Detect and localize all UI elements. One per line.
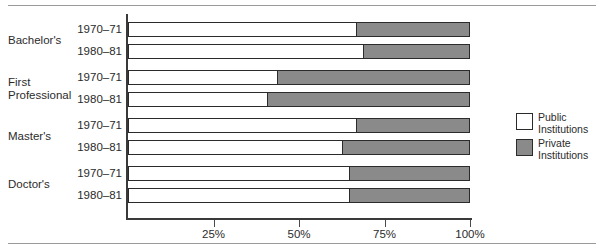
period-label: 1970–71 [62, 119, 122, 131]
bar-segment-private [349, 189, 469, 202]
bottom-divider-rule [8, 243, 596, 244]
stacked-bar [128, 92, 470, 107]
period-label: 1980–81 [62, 141, 122, 153]
axis-tick [385, 220, 386, 227]
bar-segment-private [363, 45, 469, 58]
stacked-bar [128, 22, 470, 37]
legend-swatch-private [516, 139, 533, 156]
bar-segment-private [356, 119, 469, 132]
legend-label: Public Institutions [538, 112, 588, 135]
stacked-bar [128, 118, 470, 133]
axis-tick-label: 75% [373, 228, 396, 240]
stacked-bar [128, 166, 470, 181]
period-label: 1970–71 [62, 71, 122, 83]
chart-legend: Public InstitutionsPrivate Institutions [516, 112, 602, 164]
axis-tick-label: 25% [202, 228, 225, 240]
legend-item: Private Institutions [516, 138, 602, 161]
period-label: 1970–71 [62, 167, 122, 179]
bar-segment-private [356, 23, 469, 36]
plot-area [128, 14, 470, 218]
stacked-bar [128, 188, 470, 203]
bar-segment-private [277, 71, 469, 84]
legend-item: Public Institutions [516, 112, 602, 135]
axis-tick [214, 220, 215, 227]
chart-figure: Bachelor'sFirst ProfessionalMaster'sDoct… [0, 0, 604, 252]
stacked-bar [128, 70, 470, 85]
bar-segment-private [342, 141, 469, 154]
axis-tick [299, 220, 300, 227]
bar-segment-private [349, 167, 469, 180]
legend-swatch-public [516, 113, 533, 130]
axis-tick [470, 220, 471, 227]
stacked-bar [128, 140, 470, 155]
stacked-bar [128, 44, 470, 59]
legend-label: Private Institutions [538, 138, 588, 161]
period-label: 1980–81 [62, 45, 122, 57]
axis-tick-label: 100% [455, 228, 484, 240]
period-label: 1980–81 [62, 93, 122, 105]
top-divider-rule [8, 5, 596, 6]
axis-tick-label: 50% [287, 228, 310, 240]
period-label: 1970–71 [62, 23, 122, 35]
bar-segment-private [267, 93, 469, 106]
period-label: 1980–81 [62, 189, 122, 201]
